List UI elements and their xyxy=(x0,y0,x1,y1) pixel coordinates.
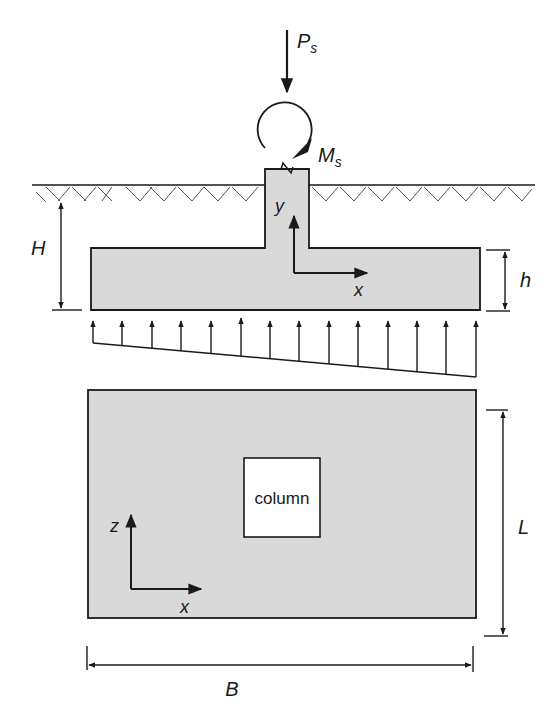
thickness-label-h: h xyxy=(520,269,531,291)
moment-label: Ms xyxy=(318,144,342,170)
width-label-B: B xyxy=(225,678,238,700)
dimension-H xyxy=(52,203,82,310)
dimension-h xyxy=(486,250,510,311)
depth-label-H: H xyxy=(31,237,46,259)
axial-load-label: Ps xyxy=(297,30,317,56)
x-axis-label-elevation: x xyxy=(353,280,364,300)
y-axis-label: y xyxy=(273,196,285,216)
length-label-L: L xyxy=(518,516,529,538)
footing-diagram: Ps Ms y x H h xyxy=(0,0,558,726)
x-axis-label-plan: x xyxy=(179,597,190,617)
z-axis-label: z xyxy=(109,516,119,536)
soil-pressure-diagram xyxy=(93,318,476,377)
column-label: column xyxy=(255,489,310,508)
dimension-L xyxy=(484,410,508,636)
dimension-B xyxy=(87,646,473,672)
moment-arrow xyxy=(258,102,312,159)
